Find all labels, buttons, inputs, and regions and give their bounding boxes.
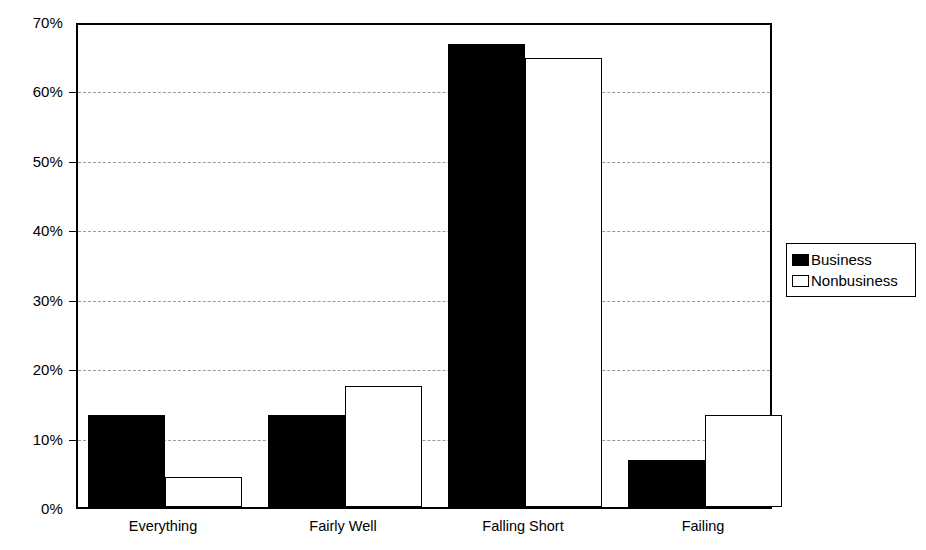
y-tick-mark-20 bbox=[69, 370, 76, 371]
x-tick-label-failing: Failing bbox=[613, 518, 793, 535]
y-tick-label-40: 40% bbox=[33, 223, 63, 238]
y-tick-label-0: 0% bbox=[41, 501, 63, 516]
bar-business-everything bbox=[88, 415, 165, 507]
gridline-20 bbox=[78, 370, 770, 371]
y-tick-mark-10 bbox=[69, 440, 76, 441]
y-tick-label-10: 10% bbox=[33, 432, 63, 447]
y-tick-label-20: 20% bbox=[33, 362, 63, 377]
y-tick-label-30: 30% bbox=[33, 293, 63, 308]
legend-label-nonbusiness: Nonbusiness bbox=[811, 273, 898, 288]
legend-label-business: Business bbox=[811, 252, 872, 267]
legend-item-business: Business bbox=[792, 249, 911, 270]
bar-chart: 0%10%20%30%40%50%60%70% EverythingFairly… bbox=[0, 0, 926, 550]
bar-nonbusiness-failing bbox=[705, 415, 782, 507]
y-tick-mark-50 bbox=[69, 162, 76, 163]
gridline-10 bbox=[78, 440, 770, 441]
gridline-50 bbox=[78, 162, 770, 163]
legend-swatch-icon-nonbusiness bbox=[792, 275, 809, 287]
legend: BusinessNonbusiness bbox=[786, 243, 916, 297]
bar-nonbusiness-falling-short bbox=[525, 58, 602, 507]
x-tick-label-falling-short: Falling Short bbox=[433, 518, 613, 535]
bar-nonbusiness-everything bbox=[165, 477, 242, 507]
x-tick-label-everything: Everything bbox=[73, 518, 253, 535]
y-tick-mark-30 bbox=[69, 301, 76, 302]
plot-area bbox=[76, 23, 772, 509]
y-tick-label-70: 70% bbox=[33, 15, 63, 30]
y-tick-mark-40 bbox=[69, 231, 76, 232]
y-tick-label-50: 50% bbox=[33, 154, 63, 169]
gridline-60 bbox=[78, 92, 770, 93]
bar-business-fairly-well bbox=[268, 415, 345, 507]
bar-business-falling-short bbox=[448, 44, 525, 507]
x-tick-label-fairly-well: Fairly Well bbox=[253, 518, 433, 535]
bar-business-failing bbox=[628, 460, 705, 507]
legend-swatch-icon-business bbox=[792, 254, 809, 266]
gridline-30 bbox=[78, 301, 770, 302]
legend-item-nonbusiness: Nonbusiness bbox=[792, 270, 911, 291]
y-tick-mark-60 bbox=[69, 92, 76, 93]
y-tick-label-60: 60% bbox=[33, 84, 63, 99]
bar-nonbusiness-fairly-well bbox=[345, 386, 422, 508]
gridline-40 bbox=[78, 231, 770, 232]
